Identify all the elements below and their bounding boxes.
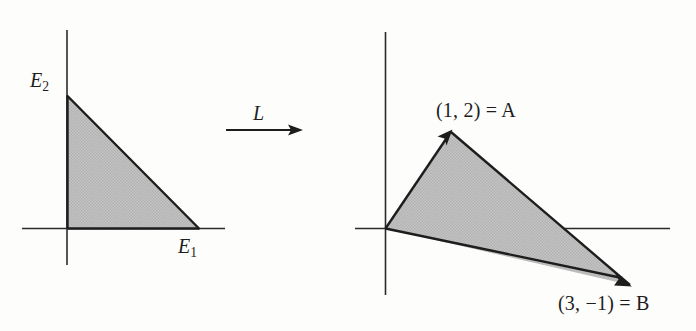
label-e2-subscript: 2 (42, 79, 49, 94)
label-transformation-l: L (253, 102, 264, 125)
transformation-arrow-group (226, 125, 303, 136)
label-vector-b: (3, −1) = B (558, 292, 649, 315)
figure-canvas: E2 E1 L (1, 2) = A (3, −1) = B (0, 0, 696, 331)
right-panel-group (355, 32, 670, 295)
left-panel-group (22, 30, 225, 265)
label-e2-letter: E (30, 69, 42, 91)
diagram-svg (0, 0, 696, 331)
label-e1-letter: E (178, 235, 190, 257)
label-e2: E2 (30, 69, 49, 95)
label-e1-subscript: 1 (190, 245, 197, 260)
label-e1: E1 (178, 235, 197, 261)
label-vector-a: (1, 2) = A (436, 99, 516, 122)
image-triangle-fill (386, 132, 631, 285)
